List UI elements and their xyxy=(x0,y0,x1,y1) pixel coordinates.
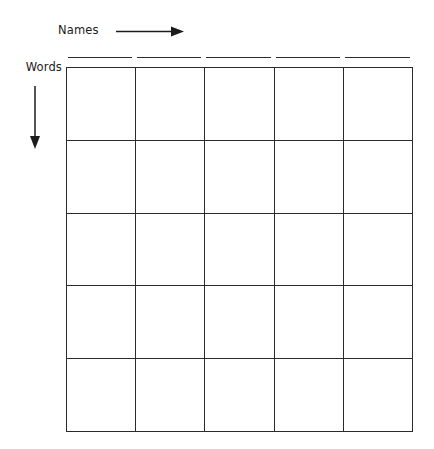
grid-cell[interactable] xyxy=(275,359,344,432)
grid-cell[interactable] xyxy=(205,141,274,214)
name-blank-line[interactable] xyxy=(66,56,135,62)
grid-cell[interactable] xyxy=(67,141,136,214)
name-blank-line[interactable] xyxy=(274,56,343,62)
grid-cell[interactable] xyxy=(344,68,413,141)
grid-cell[interactable] xyxy=(344,141,413,214)
grid-cell[interactable] xyxy=(136,214,205,287)
grid-cell[interactable] xyxy=(205,68,274,141)
words-axis-label: Words xyxy=(8,62,62,74)
grid-cell[interactable] xyxy=(344,214,413,287)
name-blank-lines xyxy=(66,56,413,62)
grid-cell[interactable] xyxy=(275,141,344,214)
grid-cell[interactable] xyxy=(205,214,274,287)
name-blank-line[interactable] xyxy=(344,56,413,62)
grid-cell[interactable] xyxy=(136,286,205,359)
name-blank-line[interactable] xyxy=(205,56,274,62)
worksheet-canvas: Names Words xyxy=(0,0,434,449)
grid-cell[interactable] xyxy=(67,286,136,359)
names-axis-label: Names xyxy=(58,25,99,37)
name-blank-line[interactable] xyxy=(135,56,204,62)
grid-cell[interactable] xyxy=(136,359,205,432)
grid-cell[interactable] xyxy=(67,359,136,432)
grid-cell[interactable] xyxy=(275,68,344,141)
grid-cell[interactable] xyxy=(136,141,205,214)
grid-cell[interactable] xyxy=(275,286,344,359)
grid-cell[interactable] xyxy=(344,286,413,359)
grid-cell[interactable] xyxy=(205,286,274,359)
arrow-down-icon xyxy=(25,86,45,150)
grid-cell[interactable] xyxy=(67,68,136,141)
worksheet-grid xyxy=(66,67,413,432)
grid-cell[interactable] xyxy=(136,68,205,141)
grid-cell[interactable] xyxy=(67,214,136,287)
grid-cell[interactable] xyxy=(205,359,274,432)
arrow-right-icon xyxy=(116,22,186,42)
grid-cell[interactable] xyxy=(275,214,344,287)
grid-cell[interactable] xyxy=(344,359,413,432)
